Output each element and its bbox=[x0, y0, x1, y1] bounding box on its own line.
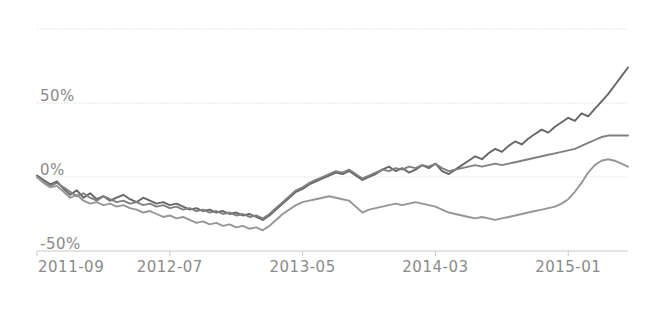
data-series bbox=[37, 67, 628, 230]
gridlines bbox=[37, 29, 628, 177]
y-axis-tick-label-neg50: -50% bbox=[40, 235, 81, 253]
chart-container: 50% 0% -50% 2011-09 2012-07 2013-05 2014… bbox=[0, 0, 662, 309]
x-axis-tick-label-2011-09: 2011-09 bbox=[38, 258, 104, 276]
x-axis-tick-label-2013-05: 2013-05 bbox=[270, 258, 336, 276]
x-axis-tick-label-2015-01: 2015-01 bbox=[535, 258, 601, 276]
y-axis-tick-label-50: 50% bbox=[40, 87, 75, 105]
x-axis-tick-label-2014-03: 2014-03 bbox=[402, 258, 468, 276]
x-axis-tick-label-2012-07: 2012-07 bbox=[137, 258, 203, 276]
line-series-3 bbox=[37, 159, 628, 230]
y-axis-tick-label-0: 0% bbox=[40, 161, 65, 179]
axis-lines bbox=[37, 251, 628, 256]
